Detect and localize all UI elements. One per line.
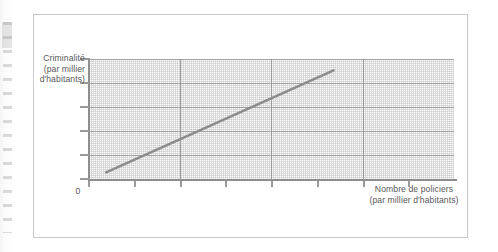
origin-label: 0 [70,186,86,196]
y-axis-label: Criminalité (par millier d'habitants) [29,53,85,85]
data-line-segment [106,70,333,172]
x-axis-tick [134,181,136,187]
x-axis-label-line-2: (par millier d'habitants) [362,195,466,206]
x-axis-tick [225,181,227,187]
x-axis-tick [317,181,319,187]
line-chart: Criminalité (par millier d'habitants) No… [34,15,467,237]
figure-card: Criminalité (par millier d'habitants) No… [33,14,468,238]
y-axis-tick [80,178,89,180]
y-axis-label-line-2: (par millier [29,64,85,75]
y-axis-tick [80,130,89,132]
page-background: Criminalité (par millier d'habitants) No… [0,0,498,252]
y-axis-label-line-3: d'habitants) [29,74,85,85]
page-edge-block-bleed [2,22,12,48]
y-axis-label-line-1: Criminalité [29,53,85,64]
page-edge-text-bleed [3,18,12,233]
x-axis-label-line-1: Nombre de policiers [362,184,466,195]
y-axis-tick [80,154,89,156]
x-axis-label: Nombre de policiers (par millier d'habit… [362,184,466,205]
y-axis-tick [80,106,89,108]
x-axis-tick [271,181,273,187]
x-axis-tick [88,181,90,187]
series-line-criminality [89,59,454,179]
x-axis-tick [180,181,182,187]
